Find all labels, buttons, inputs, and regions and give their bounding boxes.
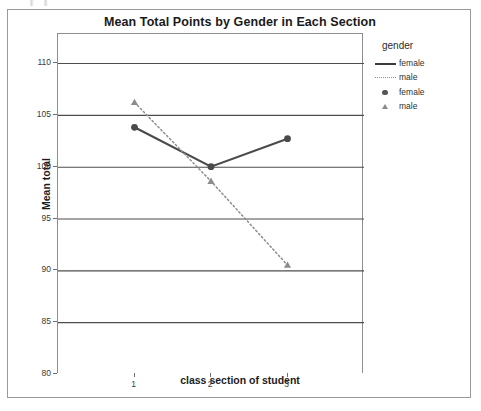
scan-artifact — [0, 0, 481, 6]
x-tick-label: 2 — [200, 379, 220, 389]
legend-item-label: male — [399, 101, 417, 112]
legend-item-label: female — [399, 58, 425, 69]
legend-key — [373, 72, 399, 83]
y-tick-label: 95 — [17, 213, 51, 223]
data-point-female — [208, 163, 215, 170]
chart-title: Mean Total Points by Gender in Each Sect… — [8, 15, 472, 29]
y-tick-label: 85 — [17, 316, 51, 326]
legend-item: male — [373, 72, 469, 84]
plot-area — [57, 33, 363, 373]
legend-rows: femalemalefemalemale — [373, 57, 469, 113]
legend-solid-line-icon — [375, 63, 396, 65]
data-point-female — [284, 135, 291, 142]
y-tick-label: 110 — [17, 57, 51, 67]
chart-frame: Mean Total Points by Gender in Each Sect… — [7, 9, 471, 398]
y-axis-title: Mean total — [40, 124, 52, 244]
x-tick-label: 1 — [124, 379, 144, 389]
series-line-female — [135, 127, 288, 166]
chart-legend: gender femalemalefemalemale — [373, 40, 469, 115]
legend-key — [373, 87, 399, 98]
y-tick-label: 105 — [17, 109, 51, 119]
y-tick-label: 90 — [17, 264, 51, 274]
legend-item-label: male — [399, 72, 417, 83]
y-tick-label: 100 — [17, 161, 51, 171]
legend-item: male — [373, 101, 469, 113]
legend-circle-marker-icon — [382, 90, 388, 96]
plot-svg — [58, 34, 364, 374]
x-tick-label: 3 — [277, 379, 297, 389]
y-tick-label: 80 — [17, 368, 51, 378]
legend-dotted-line-icon — [375, 77, 396, 78]
x-axis-title: class section of student — [8, 374, 472, 386]
legend-triangle-marker-icon — [382, 104, 388, 109]
legend-item-label: female — [399, 87, 425, 98]
legend-item: female — [373, 57, 469, 69]
legend-item: female — [373, 86, 469, 98]
legend-title: gender — [382, 40, 469, 51]
legend-key — [373, 58, 399, 69]
data-point-female — [131, 124, 138, 131]
y-tick-mark — [53, 373, 57, 374]
data-point-male — [131, 99, 138, 105]
legend-key — [373, 101, 399, 112]
